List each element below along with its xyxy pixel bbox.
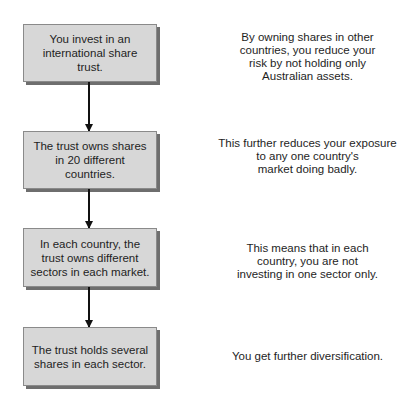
step-box-invest: You invest in an international share tru… [23, 24, 157, 82]
step-label: In each country, the trust owns differen… [31, 237, 150, 279]
arrow-down-icon [88, 82, 90, 131]
note-shares: You get further diversification. [225, 350, 390, 363]
arrow-down-icon [88, 287, 90, 327]
step-box-sectors: In each country, the trust owns differen… [23, 228, 157, 287]
step-label: The trust holds several shares in each s… [32, 343, 148, 371]
note-invest: By owning shares in other countries, you… [225, 31, 390, 83]
note-countries: This further reduces your exposure to an… [215, 137, 400, 176]
step-label: The trust owns shares in 20 different co… [30, 139, 150, 181]
arrow-down-icon [88, 189, 90, 228]
step-box-countries: The trust owns shares in 20 different co… [23, 131, 157, 189]
step-box-shares: The trust holds several shares in each s… [23, 327, 157, 386]
step-label: You invest in an international share tru… [30, 32, 150, 74]
note-sectors: This means that in each country, you are… [225, 242, 390, 281]
